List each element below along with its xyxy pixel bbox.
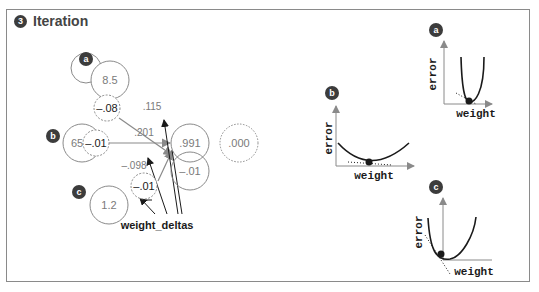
plot-b-ylabel: error <box>323 121 335 154</box>
prediction-node: .991 <box>171 124 209 162</box>
weight-label-a: .115 <box>143 101 162 112</box>
label-c: c <box>76 187 81 197</box>
error-plot-c: c weight error <box>413 180 494 278</box>
weight-deltas-annotation: weight_deltas <box>120 219 194 231</box>
plot-c-xlabel: weight <box>454 266 494 278</box>
plot-c-badge: c <box>433 182 438 192</box>
error-plot-a: a weight error <box>427 23 496 120</box>
plot-b-xlabel: weight <box>354 170 394 182</box>
goal-value: .000 <box>228 137 249 149</box>
input-a-value: 8.5 <box>102 74 117 86</box>
weight-delta-node-b: –.01 <box>83 130 109 156</box>
weight-delta-c: –.01 <box>133 180 154 192</box>
diagram-canvas: 8.5 a 65% b 1.2 c –.08 –.01 –.01 .115 .2… <box>0 0 539 292</box>
weight-delta-b: –.01 <box>85 137 106 149</box>
weight-label-c: –.098 <box>121 160 146 171</box>
plot-a-ylabel: error <box>427 57 439 90</box>
delta-value: –.01 <box>179 165 200 177</box>
plot-a-xlabel: weight <box>456 108 496 120</box>
label-b: b <box>50 131 56 141</box>
weight-delta-node-c: –.01 <box>131 173 157 199</box>
weight-delta-node-a: –.08 <box>94 95 120 121</box>
error-plot-b: b weight error <box>323 86 414 182</box>
goal-node: .000 <box>220 124 258 162</box>
weight-label-b: .201 <box>134 127 154 138</box>
weight-delta-a: –.08 <box>96 102 117 114</box>
input-node-a-full: 8.5 <box>91 61 129 99</box>
input-c-value: 1.2 <box>101 199 116 211</box>
prediction-value: .991 <box>179 137 200 149</box>
plot-b-badge: b <box>329 88 335 98</box>
plot-c-ylabel: error <box>413 215 425 248</box>
